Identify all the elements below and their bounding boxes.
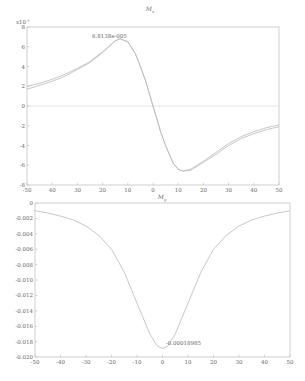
mx-peak-annotation: 6.8138e-005 <box>92 33 127 39</box>
y-tick-label: 8 <box>22 24 26 30</box>
y-tick-label: 0 <box>30 200 34 206</box>
y-tick-label: -0.002 <box>15 215 33 221</box>
my-title: My <box>157 193 167 202</box>
x-tick-label: -30 <box>82 359 91 365</box>
x-tick-label: 0 <box>161 359 165 365</box>
x-tick-label: -20 <box>107 359 116 365</box>
mx-series <box>27 39 279 171</box>
y-tick-label: -4 <box>20 143 26 149</box>
y-tick-label: 0 <box>22 103 26 109</box>
series-line <box>27 39 279 171</box>
mx-y-axis: 86420-2-4-6-8 <box>20 24 30 188</box>
y-tick-label: -0.014 <box>15 308 33 314</box>
y-tick-label: 6 <box>22 44 26 50</box>
my-series <box>35 211 290 349</box>
y-tick-label: -0.004 <box>15 231 33 237</box>
my-plot-frame <box>35 203 290 357</box>
x-tick-label: 20 <box>210 359 217 365</box>
x-tick-label: 30 <box>236 359 243 365</box>
y-tick-label: -0.010 <box>15 277 33 283</box>
y-tick-label: -0.006 <box>15 246 33 252</box>
x-tick-label: -50 <box>31 359 40 365</box>
my-y-axis: 0-0.002-0.004-0.006-0.008-0.010-0.012-0.… <box>15 200 37 360</box>
mx-title: Mx <box>145 5 155 14</box>
series-line <box>35 211 290 349</box>
my-chart: My 0-0.002-0.004-0.006-0.008-0.010-0.012… <box>0 191 305 381</box>
y-tick-label: -0.012 <box>15 292 33 298</box>
x-tick-label: -10 <box>133 359 142 365</box>
y-tick-label: -2 <box>20 123 25 129</box>
y-tick-label: -0.016 <box>15 323 33 329</box>
y-tick-label: -0.018 <box>15 339 33 345</box>
my-x-axis: -50-40-30-20-1001020304050 <box>31 355 294 366</box>
x-tick-label: -40 <box>56 359 65 365</box>
y-tick-label: 4 <box>22 64 26 70</box>
x-tick-label: 10 <box>185 359 192 365</box>
y-tick-label: -0.008 <box>15 262 33 268</box>
mx-chart: Mx x10-5 86420-2-4-6-8 -5040302010010203… <box>0 0 305 195</box>
x-tick-label: 40 <box>261 359 268 365</box>
y-tick-label: -6 <box>20 162 26 168</box>
x-tick-label: 50 <box>287 359 294 365</box>
y-tick-label: 2 <box>22 83 26 89</box>
my-min-annotation: -0.00018985 <box>166 340 202 346</box>
